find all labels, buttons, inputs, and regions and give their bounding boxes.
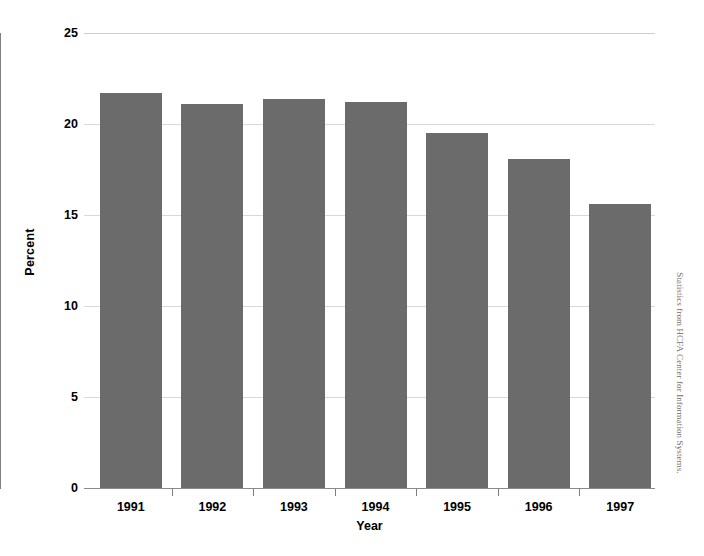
bar: [263, 99, 325, 488]
bar: [589, 204, 651, 488]
bar: [426, 133, 488, 488]
bar: [181, 104, 243, 488]
x-tick-mark: [335, 489, 336, 496]
bar: [345, 102, 407, 488]
x-tick-mark: [416, 489, 417, 496]
x-tick-mark: [498, 489, 499, 496]
x-tick-label: 1992: [167, 500, 257, 514]
x-tick-label: 1991: [86, 500, 176, 514]
x-tick-label: 1996: [494, 500, 584, 514]
x-tick-mark: [579, 489, 580, 496]
bar: [508, 159, 570, 488]
bars-layer: 1991199219931994199519961997: [0, 0, 704, 556]
x-tick-label: 1995: [412, 500, 502, 514]
x-tick-mark: [172, 489, 173, 496]
x-tick-mark: [253, 489, 254, 496]
source-note: Statistics from HCFA Center for Informat…: [675, 223, 685, 523]
bar-chart-figure: Percent 0510152025 199119921993199419951…: [0, 0, 704, 556]
x-tick-label: 1994: [331, 500, 421, 514]
bar: [100, 93, 162, 488]
x-tick-label: 1997: [575, 500, 665, 514]
x-tick-label: 1993: [249, 500, 339, 514]
x-axis-title: Year: [84, 519, 655, 533]
